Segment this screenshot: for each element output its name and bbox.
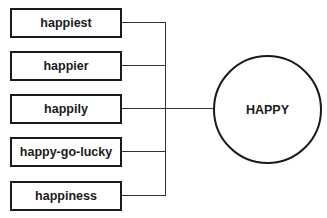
word-box-happiest: happiest	[10, 8, 122, 38]
word-box-happier: happier	[10, 51, 122, 81]
connector-line	[122, 65, 166, 66]
connector-line	[122, 195, 166, 196]
word-label: happiness	[35, 189, 97, 203]
center-circle: HAPPY	[213, 55, 322, 164]
word-family-diagram: happiest happier happily happy-go-lucky …	[0, 0, 327, 218]
word-label: happily	[44, 102, 88, 116]
word-label: happy-go-lucky	[20, 145, 112, 159]
vertical-connector	[165, 22, 166, 195]
word-label: happier	[43, 59, 88, 73]
word-label: happiest	[40, 16, 91, 30]
center-label: HAPPY	[246, 103, 289, 117]
word-box-happily: happily	[10, 94, 122, 124]
connector-line	[122, 151, 166, 152]
connector-line	[122, 22, 166, 23]
word-box-happiness: happiness	[10, 181, 122, 211]
word-box-happy-go-lucky: happy-go-lucky	[10, 137, 122, 167]
connector-line-to-center	[122, 108, 214, 109]
